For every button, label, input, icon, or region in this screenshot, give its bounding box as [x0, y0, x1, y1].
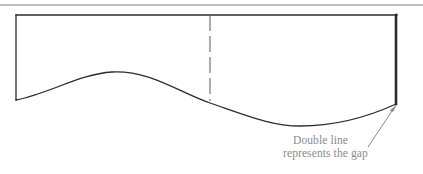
wave-profile-curve [16, 72, 396, 126]
caption-line-2: represents the gap [283, 147, 368, 160]
diagram-figure: Double line represents the gap [0, 0, 423, 174]
caption-line-1: Double line [293, 134, 348, 147]
